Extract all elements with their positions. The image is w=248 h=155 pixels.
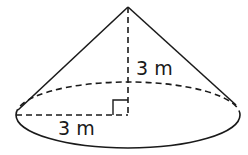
cone-base-front bbox=[16, 115, 240, 148]
radius-label: 3 m bbox=[58, 117, 95, 139]
cone-diagram: 3 m 3 m bbox=[0, 0, 248, 155]
cone-left-slant bbox=[18, 7, 128, 110]
cone-right-slant bbox=[128, 7, 236, 105]
height-label: 3 m bbox=[136, 57, 173, 79]
right-angle-marker bbox=[113, 100, 128, 115]
